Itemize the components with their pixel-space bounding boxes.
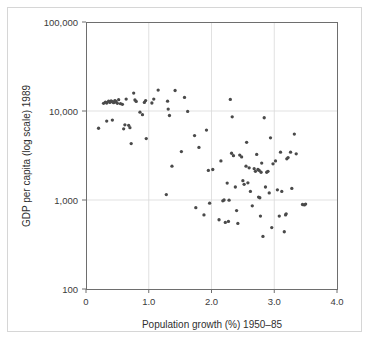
- data-point: [258, 196, 261, 199]
- scatter-plot-figure: 1001,00010,000100,000 01.02.03.04.0 GDP …: [0, 0, 370, 340]
- data-point: [170, 165, 173, 168]
- data-point: [166, 100, 169, 103]
- data-point: [202, 213, 205, 216]
- data-point: [259, 214, 262, 217]
- data-point: [122, 127, 125, 130]
- data-point: [114, 100, 117, 103]
- x-tick-label: 0: [83, 296, 88, 307]
- data-point: [242, 183, 245, 186]
- data-point: [207, 169, 210, 172]
- x-tick-label: 3.0: [268, 296, 281, 307]
- data-point: [121, 103, 124, 106]
- data-point: [224, 221, 227, 224]
- data-point: [222, 198, 225, 201]
- data-point: [138, 111, 141, 114]
- data-point: [249, 190, 252, 193]
- plot-frame: [87, 23, 338, 290]
- data-point: [271, 162, 274, 165]
- data-point: [248, 166, 251, 169]
- data-point: [279, 150, 282, 153]
- data-point: [229, 98, 232, 101]
- x-axis-title: Population growth (%) 1950–85: [142, 319, 283, 330]
- data-point: [274, 159, 277, 162]
- data-point: [157, 88, 160, 91]
- data-point: [211, 168, 214, 171]
- data-point: [268, 191, 271, 194]
- data-point: [219, 159, 222, 162]
- data-point: [183, 96, 186, 99]
- data-point: [117, 98, 120, 101]
- data-point: [231, 115, 234, 118]
- data-point: [241, 179, 244, 182]
- data-point: [128, 126, 131, 129]
- data-point: [263, 116, 266, 119]
- data-point: [295, 152, 298, 155]
- data-point: [289, 150, 292, 153]
- data-point: [135, 100, 138, 103]
- data-point: [251, 204, 254, 207]
- data-point: [173, 89, 176, 92]
- data-point: [125, 97, 128, 100]
- data-point: [208, 202, 211, 205]
- data-point: [283, 230, 286, 233]
- data-point: [286, 156, 289, 159]
- data-point: [193, 134, 196, 137]
- data-point: [132, 91, 135, 94]
- data-point: [235, 209, 238, 212]
- data-point: [123, 123, 126, 126]
- x-tick-label: 1.0: [142, 296, 155, 307]
- data-point: [145, 137, 148, 140]
- data-point: [261, 235, 264, 238]
- chart-canvas: 1001,00010,000100,000 01.02.03.04.0 GDP …: [0, 0, 370, 340]
- y-tick-label: 100,000: [44, 17, 78, 28]
- y-axis-tick-labels: 1001,00010,000100,000: [44, 17, 78, 295]
- data-point: [290, 187, 293, 190]
- x-axis-tick-labels: 01.02.03.04.0: [83, 296, 343, 307]
- data-point: [244, 165, 247, 168]
- data-point: [245, 141, 248, 144]
- data-point: [285, 212, 288, 215]
- y-axis-title: GDP per capita (log scale) 1989: [21, 85, 32, 228]
- data-point: [186, 110, 189, 113]
- y-tick-label: 10,000: [49, 106, 78, 117]
- data-point: [280, 190, 283, 193]
- data-point: [165, 193, 168, 196]
- data-point: [168, 114, 171, 117]
- data-point: [105, 119, 108, 122]
- data-point: [246, 181, 249, 184]
- data-point: [259, 171, 262, 174]
- data-point: [144, 99, 147, 102]
- data-point: [293, 132, 296, 135]
- data-point: [276, 188, 279, 191]
- data-point: [152, 97, 155, 100]
- data-point: [278, 214, 281, 217]
- data-point: [194, 206, 197, 209]
- x-tick-label: 4.0: [330, 296, 343, 307]
- data-point: [240, 155, 243, 158]
- data-point: [197, 146, 200, 149]
- data-point: [130, 142, 133, 145]
- axis-ticks-group: [82, 22, 337, 293]
- data-point: [205, 128, 208, 131]
- data-point: [232, 154, 235, 157]
- data-point: [255, 153, 258, 156]
- data-point: [269, 136, 272, 139]
- data-point: [217, 218, 220, 221]
- data-point: [264, 185, 267, 188]
- data-point: [270, 226, 273, 229]
- data-point: [236, 222, 239, 225]
- y-tick-label: 1,000: [54, 195, 78, 206]
- data-point: [266, 170, 269, 173]
- data-point: [234, 185, 237, 188]
- data-point: [304, 202, 307, 205]
- plot-area-rect: [87, 23, 338, 290]
- data-point: [141, 113, 144, 116]
- data-point: [260, 161, 263, 164]
- x-tick-label: 2.0: [205, 296, 218, 307]
- data-point: [227, 220, 230, 223]
- data-point: [167, 107, 170, 110]
- data-point: [180, 150, 183, 153]
- y-tick-label: 100: [62, 284, 78, 295]
- data-point: [97, 127, 100, 130]
- gridlines-group: [86, 22, 337, 289]
